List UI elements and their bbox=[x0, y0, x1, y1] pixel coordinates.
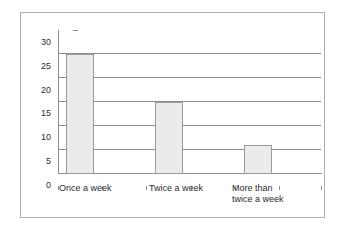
ytick-label-25: 25 bbox=[29, 62, 51, 71]
x-axis-line bbox=[58, 173, 322, 174]
chart-screenshot: 30 25 20 15 10 5 0 bbox=[0, 0, 347, 232]
gridline-20 bbox=[58, 77, 321, 78]
xtick-label-twice-a-week: Twice a week bbox=[149, 183, 239, 194]
ytick-label-0: 0 bbox=[29, 181, 51, 190]
gridline-10 bbox=[58, 125, 321, 126]
ytick-label-20: 20 bbox=[29, 86, 51, 95]
ytick-15: 15 bbox=[21, 109, 51, 118]
xtick-mark-6 bbox=[321, 186, 322, 190]
ytick-label-30: 30 bbox=[29, 38, 51, 47]
ytick-20: 20 bbox=[21, 86, 51, 95]
ytick-30: 30 bbox=[21, 38, 51, 47]
ytick-0: 0 bbox=[21, 181, 51, 190]
gridline-25 bbox=[58, 53, 321, 54]
plot-area bbox=[58, 30, 321, 173]
ytick-5: 5 bbox=[21, 157, 51, 166]
gridline-5 bbox=[58, 149, 321, 150]
ytick-label-5: 5 bbox=[29, 157, 51, 166]
gridline-15 bbox=[58, 101, 321, 102]
ytick-10: 10 bbox=[21, 133, 51, 142]
ytick-25: 25 bbox=[21, 62, 51, 71]
figure-frame: 30 25 20 15 10 5 0 bbox=[20, 12, 325, 218]
xtick-label-once-a-week: Once a week bbox=[59, 183, 149, 194]
bar-twice-a-week bbox=[155, 102, 183, 174]
ytick-label-10: 10 bbox=[29, 133, 51, 142]
xtick-label-more-than-twice-a-week: More than twice a week bbox=[232, 183, 312, 205]
ytick-label-15: 15 bbox=[29, 109, 51, 118]
bar-once-a-week bbox=[66, 54, 94, 174]
bar-more-than-twice-a-week bbox=[244, 145, 272, 174]
